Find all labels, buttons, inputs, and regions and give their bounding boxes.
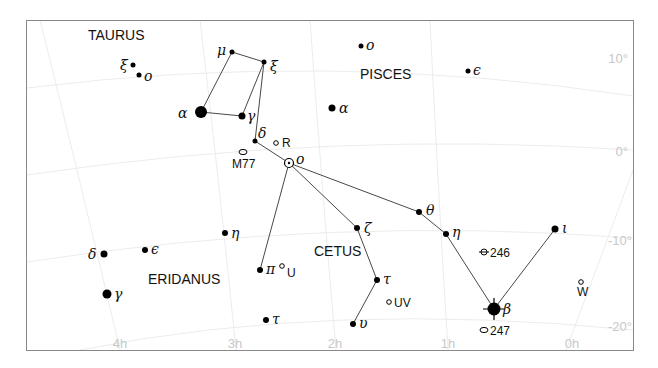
star-eri-epsilon (142, 247, 148, 253)
star-psc-o (359, 44, 364, 49)
star-label: ϵ (151, 241, 159, 257)
star-label: μ (217, 42, 226, 58)
right-ascension-label: 3h (228, 336, 242, 351)
star-label: δ (258, 125, 266, 141)
declination-label: 10° (608, 51, 628, 66)
star-label: η (231, 225, 240, 241)
galaxy-icon (480, 327, 488, 332)
star-psc-alpha (329, 105, 336, 112)
galaxy-icon (239, 149, 247, 154)
deep-sky-label: U (287, 266, 296, 280)
constellation-line (289, 163, 555, 309)
labels: ξoμξαγδoαϵζθηιτυπηδϵγτβoRM77UUV246247WTA… (88, 27, 632, 351)
star-label: τ (272, 311, 280, 327)
star-tau-o (137, 73, 142, 78)
star-label: o (366, 37, 374, 53)
star-label: η (452, 224, 461, 240)
star-label: β (502, 301, 511, 317)
variable-star-icon (274, 141, 279, 146)
star-eri-tau (263, 317, 269, 323)
star-cet-gamma (239, 113, 246, 120)
deep-sky-label: 247 (490, 324, 510, 338)
constellation-name: ERIDANUS (148, 271, 220, 287)
star-cet-pi (257, 267, 263, 273)
bright-star-spikes (483, 298, 505, 320)
star-cet-alpha (195, 106, 207, 118)
star-cet-iota (552, 226, 559, 233)
star-label: γ (114, 286, 123, 302)
star-label: α (339, 100, 349, 116)
star-cet-zeta (354, 225, 360, 231)
star-chart: ξoμξαγδoαϵζθηιτυπηδϵγτβoRM77UUV246247WTA… (0, 0, 658, 368)
star-label: ξ (120, 57, 129, 73)
star-cet-mu (230, 50, 235, 55)
variable-star-icon (280, 264, 285, 269)
right-ascension-label: 1h (441, 336, 455, 351)
star-label: θ (426, 202, 435, 218)
star-eri-eta (222, 230, 228, 236)
constellation-name: CETUS (314, 243, 361, 259)
star-label: o (296, 151, 304, 167)
star-label: π (265, 261, 276, 277)
deep-sky-label: M77 (232, 157, 256, 171)
star-label: γ (247, 108, 256, 124)
variable-star-core (288, 162, 290, 164)
variable-star-icon (579, 280, 584, 285)
star-label: α (178, 105, 188, 121)
right-ascension-label: 0h (565, 336, 579, 351)
star-cet-tau (374, 277, 380, 283)
star-label: τ (383, 271, 391, 287)
constellation-line (260, 163, 289, 270)
star-eri-delta (101, 251, 108, 258)
star-label: o (144, 68, 152, 84)
right-ascension-label: 2h (328, 336, 342, 351)
star-label: ξ (270, 58, 279, 74)
star-cet-upsilon (350, 321, 356, 327)
constellation-lines (201, 52, 555, 324)
declination-label: -20° (608, 319, 632, 334)
variable-star-icon (387, 300, 392, 305)
star-label: δ (88, 246, 96, 262)
star-label: ϵ (473, 62, 481, 78)
star-cet-xi (262, 60, 267, 65)
star-psc-epsilon (466, 69, 471, 74)
declination-label: -10° (608, 233, 632, 248)
deep-sky-label: R (282, 136, 291, 150)
star-cet-theta (416, 209, 422, 215)
constellation-name: PISCES (360, 66, 411, 82)
star-tau-xi (131, 63, 136, 68)
deep-sky-label: UV (394, 296, 411, 310)
star-label: ζ (364, 220, 373, 236)
star-label: υ (359, 315, 368, 331)
declination-label: 0° (616, 144, 628, 159)
constellation-name: TAURUS (88, 27, 145, 43)
star-eri-gamma (103, 290, 112, 299)
star-label: ι (562, 220, 568, 236)
right-ascension-label: 4h (113, 336, 127, 351)
star-cet-eta (443, 231, 449, 237)
deep-sky-label: 246 (490, 246, 510, 260)
deep-sky-label: W (577, 285, 589, 299)
star-cet-delta (253, 139, 258, 144)
deep-sky-objects (239, 141, 583, 333)
